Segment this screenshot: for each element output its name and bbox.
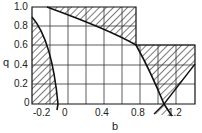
y-tick-label: 0 bbox=[24, 98, 30, 108]
y-tick-label: 0.8 bbox=[14, 21, 28, 31]
y-tick-label: 1.0 bbox=[14, 2, 28, 12]
y-tick-label: 0.6 bbox=[14, 40, 28, 50]
x-tick-label: -0.2 bbox=[33, 108, 50, 118]
x-axis-label: b bbox=[112, 121, 118, 131]
y-tick-label: 0.2 bbox=[14, 79, 28, 89]
x-tick-label: 0.8 bbox=[131, 108, 145, 118]
x-tick-label: 0 bbox=[62, 108, 68, 118]
left-hatched-region bbox=[32, 17, 58, 104]
y-tick-label: 0.4 bbox=[14, 60, 28, 70]
upper-right-hatched-region bbox=[47, 7, 195, 104]
y-axis-label: q bbox=[3, 57, 9, 67]
x-tick-label: 1.2 bbox=[168, 108, 182, 118]
x-tick-label: 0.4 bbox=[95, 108, 109, 118]
